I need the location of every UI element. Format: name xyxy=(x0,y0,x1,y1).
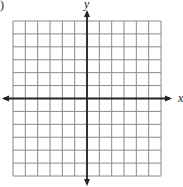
y-axis-label: y xyxy=(84,0,89,10)
y-axis-up-arrow-icon xyxy=(84,10,90,17)
x-axis-label: x xyxy=(178,92,183,104)
axes xyxy=(2,10,172,186)
y-axis-down-arrow-icon xyxy=(84,179,90,186)
x-axis-right-arrow-icon xyxy=(165,96,172,102)
coordinate-plane: ) y x xyxy=(0,0,183,187)
x-axis-left-arrow-icon xyxy=(2,96,9,102)
grid-svg xyxy=(0,0,183,187)
